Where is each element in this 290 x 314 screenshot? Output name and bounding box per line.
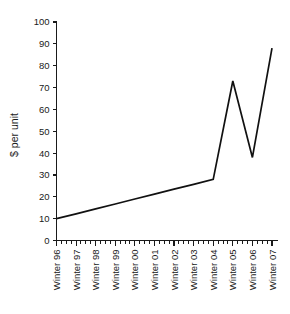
y-axis: 0102030405060708090100	[34, 16, 57, 246]
x-axis-tick-labels: Winter 96Winter 97Winter 98Winter 99Wint…	[51, 250, 278, 291]
y-axis-tick-label: 80	[39, 60, 50, 71]
line-chart: 0102030405060708090100 Winter 96Winter 9…	[0, 0, 290, 314]
x-axis-tick-label: Winter 05	[227, 250, 238, 291]
x-axis-tick-label: Winter 03	[188, 250, 199, 291]
y-axis-tick-label: 10	[39, 213, 50, 224]
x-axis-tick-label: Winter 00	[129, 250, 140, 291]
y-axis-tick-label: 90	[39, 38, 50, 49]
x-axis-tick-label: Winter 06	[247, 250, 258, 291]
x-axis-tick-label: Winter 98	[90, 250, 101, 291]
y-axis-tick-label: 60	[39, 104, 50, 115]
y-axis-title: $ per unit	[8, 113, 20, 157]
y-axis-tick-label: 0	[44, 235, 49, 246]
x-axis-tick-label: Winter 01	[149, 250, 160, 291]
x-axis-tick-label: Winter 07	[267, 250, 278, 291]
x-axis-tick-label: Winter 04	[208, 250, 219, 291]
y-axis-tick-label: 20	[39, 191, 50, 202]
x-axis-tick-label: Winter 99	[110, 250, 121, 291]
data-series-line	[57, 48, 273, 218]
y-axis-tick-label: 100	[34, 16, 50, 27]
x-axis: Winter 96Winter 97Winter 98Winter 99Wint…	[51, 241, 278, 291]
y-axis-tick-label: 30	[39, 169, 50, 180]
x-axis-tick-label: Winter 02	[169, 250, 180, 291]
y-axis-ticks	[53, 22, 57, 241]
x-axis-ticks	[57, 241, 273, 247]
y-axis-tick-labels: 0102030405060708090100	[34, 16, 50, 246]
x-axis-tick-label: Winter 96	[51, 250, 62, 291]
y-axis-tick-label: 50	[39, 126, 50, 137]
y-axis-tick-label: 40	[39, 148, 50, 159]
x-axis-tick-label: Winter 97	[71, 250, 82, 291]
y-axis-tick-label: 70	[39, 82, 50, 93]
chart-container: 0102030405060708090100 Winter 96Winter 9…	[0, 0, 290, 314]
